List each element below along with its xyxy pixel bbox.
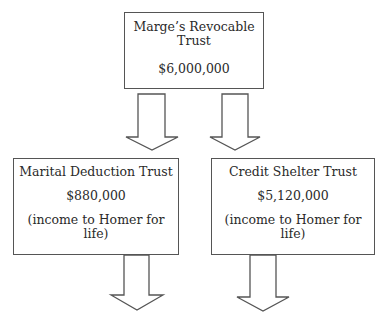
box-title: Credit Shelter Trust — [212, 165, 374, 179]
box-note-line2: life) — [14, 227, 178, 241]
box-title-line2: Trust — [125, 34, 263, 48]
box-amount: $880,000 — [14, 189, 178, 203]
down-arrow-icon — [126, 94, 178, 150]
down-arrow-icon — [237, 255, 289, 311]
marges-revocable-trust-box: Marge’s Revocable Trust $6,000,000 — [124, 12, 264, 89]
box-title-line1: Marge’s Revocable — [125, 20, 263, 34]
box-title: Marital Deduction Trust — [14, 165, 178, 179]
box-note-line2: life) — [212, 227, 374, 241]
box-amount: $5,120,000 — [212, 189, 374, 203]
down-arrow-icon — [111, 255, 163, 310]
box-note-line1: (income to Homer for — [212, 213, 374, 227]
down-arrow-icon — [210, 94, 260, 150]
marital-deduction-trust-box: Marital Deduction Trust $880,000 (income… — [13, 158, 179, 255]
box-note-line1: (income to Homer for — [14, 213, 178, 227]
box-amount: $6,000,000 — [125, 62, 263, 76]
credit-shelter-trust-box: Credit Shelter Trust $5,120,000 (income … — [211, 158, 375, 255]
